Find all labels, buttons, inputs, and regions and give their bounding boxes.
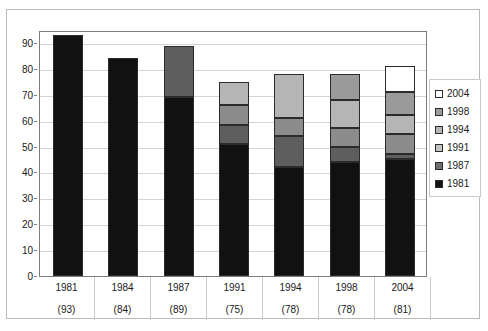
- legend-swatch-icon-1994: [435, 126, 443, 134]
- bar-1987[interactable]: [164, 30, 194, 276]
- bar-segment-1991-1994[interactable]: [219, 82, 249, 105]
- y-tick-mark-60: [34, 121, 37, 122]
- y-tick-label-70: 70: [22, 91, 33, 101]
- y-tick-mark-50: [34, 147, 37, 148]
- legend-label-1998: 1998: [447, 107, 469, 117]
- y-tick-label-60: 60: [22, 117, 33, 127]
- legend-item-1981[interactable]: 1981: [435, 175, 480, 193]
- bar-1998[interactable]: [330, 30, 360, 276]
- x-axis-label-table: 1981198419871991199419982004 (93)(84)(89…: [39, 277, 481, 320]
- legend-swatch-icon-1981: [435, 180, 443, 188]
- bar-segment-1994-1987[interactable]: [274, 136, 304, 167]
- y-tick-mark-30: [34, 198, 37, 199]
- x-axis-count-1991: (75): [207, 299, 263, 321]
- y-tick-mark-70: [34, 95, 37, 96]
- bar-segment-2004-2004[interactable]: [385, 66, 415, 92]
- x-axis-count-1994: (78): [263, 299, 319, 321]
- legend-item-1994[interactable]: 1994: [435, 121, 480, 139]
- bar-segment-1998-1994[interactable]: [330, 100, 360, 128]
- y-tick-mark-80: [34, 69, 37, 70]
- y-tick-label-40: 40: [22, 168, 33, 178]
- y-tick-label-30: 30: [22, 194, 33, 204]
- x-axis-year-1991: 1991: [207, 277, 263, 299]
- x-axis-count-spacer: [431, 299, 482, 321]
- bar-segment-1987-1987[interactable]: [164, 46, 194, 98]
- x-axis-year-row: 1981198419871991199419982004: [39, 277, 481, 299]
- legend-item-1987[interactable]: 1987: [435, 157, 480, 175]
- y-tick-mark-90: [34, 43, 37, 44]
- bar-segment-1991-1987[interactable]: [219, 125, 249, 144]
- x-axis-table: 1981198419871991199419982004 (93)(84)(89…: [39, 277, 481, 320]
- y-axis: 0102030405060708090: [7, 31, 37, 277]
- x-axis-count-1998: (78): [319, 299, 375, 321]
- x-axis-count-1981: (93): [39, 299, 95, 321]
- legend-swatch-icon-2004: [435, 90, 443, 98]
- bar-segment-1984-1981[interactable]: [108, 58, 138, 276]
- legend-item-1998[interactable]: 1998: [435, 103, 480, 121]
- y-tick-mark-10: [34, 250, 37, 251]
- x-axis-count-2004: (81): [375, 299, 431, 321]
- chart-title: [7, 1, 481, 10]
- chart-card: 0102030405060708090 20041998199419911987…: [6, 9, 480, 319]
- y-tick-mark-0: [34, 276, 37, 277]
- y-tick-label-10: 10: [22, 246, 33, 256]
- x-axis-year-1994: 1994: [263, 277, 319, 299]
- y-tick-label-50: 50: [22, 143, 33, 153]
- x-axis-year-2004: 2004: [375, 277, 431, 299]
- bar-1981[interactable]: [53, 30, 83, 276]
- x-axis-year-1987: 1987: [151, 277, 207, 299]
- bar-segment-1994-1981[interactable]: [274, 167, 304, 276]
- bar-segment-1991-1991[interactable]: [219, 105, 249, 124]
- legend-label-1987: 1987: [447, 161, 469, 171]
- bar-segment-2004-1998[interactable]: [385, 92, 415, 115]
- bar-segment-1994-1991[interactable]: [274, 118, 304, 136]
- legend-item-1991[interactable]: 1991: [435, 139, 480, 157]
- x-axis-year-1998: 1998: [319, 277, 375, 299]
- chart-legend: 200419981994199119871981: [429, 79, 481, 197]
- legend-item-2004[interactable]: 2004: [435, 85, 480, 103]
- legend-swatch-icon-1987: [435, 162, 443, 170]
- bar-segment-2004-1991[interactable]: [385, 134, 415, 155]
- x-axis-count-1984: (84): [95, 299, 151, 321]
- bar-segment-1991-1981[interactable]: [219, 144, 249, 276]
- x-axis-count-row: (93)(84)(89)(75)(78)(78)(81): [39, 299, 481, 321]
- legend-swatch-icon-1991: [435, 144, 443, 152]
- bar-segment-1998-1981[interactable]: [330, 162, 360, 276]
- bar-1994[interactable]: [274, 30, 304, 276]
- y-tick-label-0: 0: [27, 272, 33, 282]
- bar-1991[interactable]: [219, 30, 249, 276]
- legend-label-1991: 1991: [447, 143, 469, 153]
- bar-segment-2004-1987[interactable]: [385, 154, 415, 159]
- x-axis-year-1984: 1984: [95, 277, 151, 299]
- bar-segment-2004-1994[interactable]: [385, 115, 415, 133]
- x-axis-year-spacer: [431, 277, 482, 299]
- bar-segment-1998-1991[interactable]: [330, 128, 360, 146]
- bar-segment-1987-1981[interactable]: [164, 97, 194, 276]
- y-tick-label-80: 80: [22, 65, 33, 75]
- y-tick-label-90: 90: [22, 39, 33, 49]
- x-axis-count-1987: (89): [151, 299, 207, 321]
- bar-segment-1998-1998[interactable]: [330, 74, 360, 100]
- bar-segment-1998-1987[interactable]: [330, 147, 360, 163]
- plot-area: [39, 31, 427, 277]
- y-tick-mark-40: [34, 172, 37, 173]
- y-tick-mark-20: [34, 224, 37, 225]
- bar-segment-1994-1994[interactable]: [274, 74, 304, 118]
- legend-label-2004: 2004: [447, 89, 469, 99]
- bar-2004[interactable]: [385, 30, 415, 276]
- x-axis-year-1981: 1981: [39, 277, 95, 299]
- legend-label-1994: 1994: [447, 125, 469, 135]
- bar-segment-2004-1981[interactable]: [385, 159, 415, 276]
- y-tick-label-20: 20: [22, 220, 33, 230]
- legend-swatch-icon-1998: [435, 108, 443, 116]
- legend-label-1981: 1981: [447, 179, 469, 189]
- bar-1984[interactable]: [108, 30, 138, 276]
- bar-segment-1981-1981[interactable]: [53, 35, 83, 276]
